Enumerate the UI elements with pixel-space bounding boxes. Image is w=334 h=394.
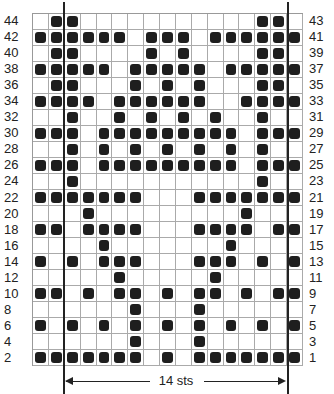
filled-stitch xyxy=(255,318,271,334)
empty-stitch xyxy=(208,238,224,254)
filled-stitch xyxy=(112,270,128,286)
row-label-left: 42 xyxy=(4,29,28,45)
empty-stitch xyxy=(271,174,287,190)
empty-stitch xyxy=(160,270,176,286)
row-label-right: 35 xyxy=(309,77,333,93)
row-label-left: 8 xyxy=(4,302,28,318)
empty-stitch xyxy=(144,190,160,206)
repeat-boundary-left xyxy=(63,2,65,394)
filled-stitch xyxy=(33,254,49,270)
filled-stitch xyxy=(112,254,128,270)
filled-stitch xyxy=(81,206,97,222)
filled-stitch xyxy=(192,158,208,174)
filled-stitch xyxy=(81,286,97,302)
empty-stitch xyxy=(176,254,192,270)
empty-stitch xyxy=(224,270,240,286)
filled-stitch xyxy=(81,94,97,110)
empty-stitch xyxy=(208,14,224,30)
filled-stitch xyxy=(287,94,303,110)
filled-stitch xyxy=(65,62,81,78)
empty-stitch xyxy=(144,334,160,350)
filled-stitch xyxy=(112,286,128,302)
filled-stitch xyxy=(128,142,144,158)
row-label-left: 6 xyxy=(4,318,28,334)
filled-stitch xyxy=(271,190,287,206)
empty-stitch xyxy=(176,286,192,302)
row-label-right: 25 xyxy=(309,157,333,173)
empty-stitch xyxy=(176,142,192,158)
empty-stitch xyxy=(97,270,113,286)
empty-stitch xyxy=(271,302,287,318)
empty-stitch xyxy=(33,142,49,158)
empty-stitch xyxy=(271,254,287,270)
empty-stitch xyxy=(112,302,128,318)
empty-stitch xyxy=(144,270,160,286)
filled-stitch xyxy=(287,190,303,206)
row-label-left: 4 xyxy=(4,334,28,350)
filled-stitch xyxy=(33,158,49,174)
filled-stitch xyxy=(224,222,240,238)
empty-stitch xyxy=(176,174,192,190)
arrow-right-icon xyxy=(278,377,286,385)
filled-stitch xyxy=(128,94,144,110)
empty-stitch xyxy=(192,238,208,254)
row-label-right: 43 xyxy=(309,13,333,29)
filled-stitch xyxy=(144,62,160,78)
filled-stitch xyxy=(192,222,208,238)
empty-stitch xyxy=(81,270,97,286)
empty-stitch xyxy=(112,318,128,334)
filled-stitch xyxy=(287,254,303,270)
filled-stitch xyxy=(144,110,160,126)
empty-stitch xyxy=(287,46,303,62)
empty-stitch xyxy=(33,110,49,126)
filled-stitch xyxy=(255,350,271,366)
row-label-right: 31 xyxy=(309,109,333,125)
empty-stitch xyxy=(192,14,208,30)
empty-stitch xyxy=(81,142,97,158)
row-label-right: 41 xyxy=(309,29,333,45)
empty-stitch xyxy=(255,206,271,222)
filled-stitch xyxy=(128,78,144,94)
filled-stitch xyxy=(255,94,271,110)
filled-stitch xyxy=(239,350,255,366)
row-label-left: 20 xyxy=(4,206,28,222)
filled-stitch xyxy=(192,318,208,334)
filled-stitch xyxy=(192,350,208,366)
empty-stitch xyxy=(97,302,113,318)
row-label-right: 5 xyxy=(309,318,333,334)
filled-stitch xyxy=(287,222,303,238)
empty-stitch xyxy=(33,14,49,30)
filled-stitch xyxy=(208,126,224,142)
row-label-left: 24 xyxy=(4,173,28,189)
row-label-left: 28 xyxy=(4,141,28,157)
empty-stitch xyxy=(160,174,176,190)
empty-stitch xyxy=(65,270,81,286)
empty-stitch xyxy=(144,286,160,302)
filled-stitch xyxy=(81,30,97,46)
arrow-line-right xyxy=(204,381,284,382)
empty-stitch xyxy=(144,142,160,158)
empty-stitch xyxy=(128,238,144,254)
filled-stitch xyxy=(160,126,176,142)
filled-stitch xyxy=(208,110,224,126)
filled-stitch xyxy=(255,14,271,30)
empty-stitch xyxy=(160,14,176,30)
empty-stitch xyxy=(208,302,224,318)
filled-stitch xyxy=(33,222,49,238)
empty-stitch xyxy=(81,238,97,254)
filled-stitch xyxy=(65,94,81,110)
empty-stitch xyxy=(224,94,240,110)
empty-stitch xyxy=(33,270,49,286)
filled-stitch xyxy=(255,126,271,142)
empty-stitch xyxy=(208,62,224,78)
row-label-right: 39 xyxy=(309,45,333,61)
row-label-left: 30 xyxy=(4,125,28,141)
empty-stitch xyxy=(287,142,303,158)
empty-stitch xyxy=(239,254,255,270)
row-label-left: 16 xyxy=(4,238,28,254)
repeat-width-annotation: 14 sts xyxy=(64,374,288,388)
empty-stitch xyxy=(239,334,255,350)
empty-stitch xyxy=(239,158,255,174)
filled-stitch xyxy=(176,62,192,78)
empty-stitch xyxy=(33,78,49,94)
